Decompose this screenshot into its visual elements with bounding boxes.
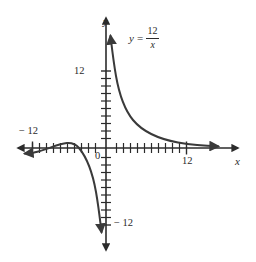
hyperbola-branch-quadrant-3 [25,143,102,232]
origin-label: 0 [95,151,100,162]
y-tick-label-12: 12 [74,66,85,77]
x-axis-label: x [235,156,240,167]
equation-fraction: 12 x [146,26,159,50]
graph-figure: y x 12 − 12 12 − 12 0 y = 12 x [0,0,256,262]
y-axis-label: y [103,16,108,27]
equation-numerator: 12 [147,26,159,37]
y-axis-group [101,18,111,250]
hyperbola-branch-quadrant-1 [111,36,219,146]
equation-annotation: y = 12 x [129,26,159,50]
x-tick-label-12: 12 [182,156,193,167]
equation-equals-sign: = [137,32,143,44]
equation-denominator: x [149,40,155,51]
equation-left-side: y [129,32,134,44]
y-tick-label-negative-12: − 12 [114,218,133,229]
x-tick-label-negative-12: − 12 [19,126,38,137]
